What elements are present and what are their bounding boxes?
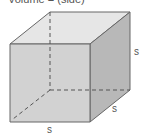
cube-diagram: s s s [0, 0, 141, 138]
width-label: s [47, 124, 52, 135]
depth-label: s [112, 103, 117, 114]
height-label: s [134, 46, 139, 57]
